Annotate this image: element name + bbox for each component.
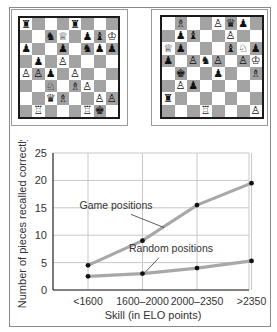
- board-square: ♟: [57, 43, 69, 55]
- board-square: [187, 105, 200, 118]
- board-square: [250, 92, 263, 105]
- board-square: [94, 68, 106, 80]
- board-square: ♞: [200, 55, 213, 68]
- game-position-board: ♜♜♞♕♟♝♔♟♟♞♟♟♟♙♙♙♟♙♘♗♙♛♗♙♙♖♖♚: [18, 16, 120, 119]
- board-square: [81, 68, 93, 80]
- y-tick-label: 5: [41, 257, 47, 269]
- board-square: [187, 17, 200, 30]
- board-square: [32, 80, 44, 92]
- y-axis-ticks: 0510152025: [35, 147, 47, 296]
- board-square: ♞: [81, 43, 93, 55]
- board-square: [225, 67, 238, 80]
- board-square: ♕: [162, 42, 175, 55]
- board-square: ♕: [57, 30, 69, 42]
- y-axis-label: Number of pieces recalled correctly: [16, 140, 28, 308]
- board-square: ♖: [81, 105, 93, 117]
- board-square: [94, 80, 106, 92]
- y-tick-label: 20: [35, 174, 47, 186]
- board-square: [20, 80, 32, 92]
- board-square: [212, 105, 225, 118]
- board-square: [175, 92, 188, 105]
- board-square: ♙: [225, 30, 238, 43]
- recall-chart: 0510152025 <16001600–20002000–2350>2350 …: [11, 140, 269, 325]
- board-panel-right: ♗♙♛♟♟♝♙♕♟♝♘♟♟♙♞♙♙♔♚♟♗♙♟♜♖♙: [151, 9, 268, 126]
- board-square: ♙: [81, 80, 93, 92]
- board-square: [20, 30, 32, 42]
- board-square: ♜: [69, 18, 81, 30]
- board-square: ♔: [250, 55, 263, 68]
- board-square: [106, 55, 118, 67]
- board-square: [237, 80, 250, 93]
- board-square: [200, 80, 213, 93]
- board-square: [200, 92, 213, 105]
- board-square: ♜: [162, 92, 175, 105]
- board-square: ♝: [187, 30, 200, 43]
- game-positions-leader: [131, 214, 164, 227]
- board-square: [187, 67, 200, 80]
- board-square: ♘: [237, 42, 250, 55]
- x-axis-ticks: <16001600–20002000–2350>2350: [73, 295, 266, 307]
- board-square: [69, 30, 81, 42]
- line-chart: 0510152025 <16001600–20002000–2350>2350 …: [11, 140, 269, 325]
- board-square: ♙: [94, 92, 106, 104]
- board-square: ♙: [57, 55, 69, 67]
- board-square: [20, 55, 32, 67]
- board-square: [237, 105, 250, 118]
- data-point: [86, 263, 91, 268]
- board-square: ♟: [175, 42, 188, 55]
- board-square: ♚: [175, 67, 188, 80]
- random-positions-leader: [145, 258, 159, 273]
- board-square: [200, 42, 213, 55]
- board-square: ♙: [69, 68, 81, 80]
- data-point: [86, 274, 91, 279]
- board-square: [212, 30, 225, 43]
- board-square: [225, 92, 238, 105]
- game-positions-label: Game positions: [80, 199, 153, 211]
- board-square: ♙: [187, 55, 200, 68]
- board-square: ♝: [94, 30, 106, 42]
- board-square: [162, 80, 175, 93]
- data-series: [86, 181, 254, 279]
- grid-lines: [53, 153, 252, 290]
- board-square: [212, 92, 225, 105]
- board-square: [225, 55, 238, 68]
- board-square: [162, 105, 175, 118]
- y-tick-label: 10: [35, 229, 47, 241]
- board-square: ♛: [225, 17, 238, 30]
- board-square: [212, 80, 225, 93]
- board-square: ♟: [162, 55, 175, 68]
- board-square: [45, 43, 57, 55]
- board-square: [175, 55, 188, 68]
- board-square: ♟: [237, 17, 250, 30]
- board-square: [45, 55, 57, 67]
- board-square: [106, 68, 118, 80]
- board-square: [81, 55, 93, 67]
- board-square: ♟: [212, 67, 225, 80]
- board-square: [106, 80, 118, 92]
- board-square: ♙: [212, 17, 225, 30]
- board-square: [20, 92, 32, 104]
- x-tick-label: 2000–2350: [171, 295, 224, 307]
- board-square: ♟: [250, 42, 263, 55]
- y-tick-label: 25: [35, 147, 47, 159]
- board-square: ♟: [81, 30, 93, 42]
- board-square: [45, 18, 57, 30]
- board-square: [175, 105, 188, 118]
- board-square: ♟: [94, 43, 106, 55]
- board-square: [237, 92, 250, 105]
- x-axis-label: Skill (in ELO points): [105, 309, 202, 321]
- board-square: ♝: [225, 42, 238, 55]
- board-square: ♗: [57, 92, 69, 104]
- board-square: [57, 68, 69, 80]
- x-tick-label: >2350: [237, 295, 267, 307]
- board-square: ♜: [20, 18, 32, 30]
- board-square: [32, 92, 44, 104]
- board-square: ♗: [69, 80, 81, 92]
- board-square: ♟: [106, 43, 118, 55]
- board-square: ♞: [45, 30, 57, 42]
- board-square: [162, 17, 175, 30]
- x-tick-label: <1600: [73, 295, 103, 307]
- board-square: ♙: [212, 55, 225, 68]
- board-square: [69, 55, 81, 67]
- board-square: ♘: [45, 80, 57, 92]
